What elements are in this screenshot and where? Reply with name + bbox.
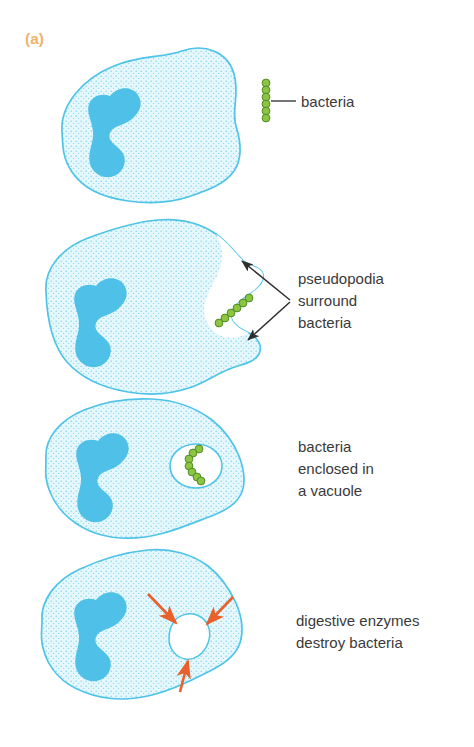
stage-4-group: digestive enzymes destroy bacteria [41, 550, 419, 699]
stage-4-label-line-1: destroy bacteria [296, 634, 403, 651]
phagocytosis-diagram: (a) bacteria pseudopodia su [0, 0, 474, 747]
cell-body-1 [62, 48, 240, 202]
stage-3-group: bacteria enclosed in a vacuole [46, 399, 374, 538]
cell-body-4 [41, 550, 242, 699]
stage-2-label-line-2: bacteria [298, 314, 352, 331]
bacteria-chain-1 [262, 79, 270, 122]
stage-2-label-line-0: pseudopodia [298, 270, 385, 287]
stage-2-label-line-1: surround [298, 292, 357, 309]
stage-4-label-line-0: digestive enzymes [296, 612, 419, 629]
stage-1-label-line-0: bacteria [301, 93, 355, 110]
stage-1-group: bacteria [62, 48, 355, 202]
figure-canvas: (a) bacteria pseudopodia su [0, 0, 474, 747]
stage-3-label-line-0: bacteria [298, 438, 352, 455]
panel-letter: (a) [25, 30, 44, 47]
stage-3-label-line-1: enclosed in [298, 460, 374, 477]
pseudopodia-arrow-lower [248, 302, 290, 340]
stage-3-label-line-2: a vacuole [298, 482, 362, 499]
stage-2-group: pseudopodia surround bacteria [46, 220, 385, 394]
